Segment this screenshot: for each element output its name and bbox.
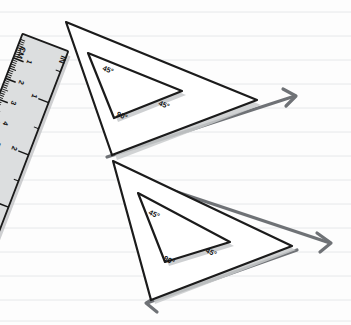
illustration-canvas: 45° 90° 45° 45° 90° 45° <box>0 0 351 325</box>
geometry-illustration: 45° 90° 45° 45° 90° 45° <box>0 0 351 325</box>
